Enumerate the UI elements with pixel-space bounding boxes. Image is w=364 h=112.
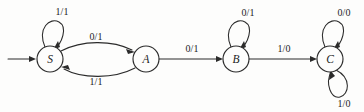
edge-b-to-c-arrowhead bbox=[310, 56, 317, 62]
start-arrowhead bbox=[29, 56, 36, 62]
state-node-a[interactable]: A bbox=[133, 46, 159, 72]
start-arrow bbox=[8, 56, 36, 62]
state-label-c: C bbox=[326, 53, 334, 65]
state-node-b[interactable]: B bbox=[223, 46, 249, 72]
transition-label-edge-s-to-a: 0/1 bbox=[90, 31, 103, 42]
state-label-b: B bbox=[232, 53, 239, 65]
self-loop-b bbox=[229, 21, 250, 50]
fsm-canvas: S A B C 1/1 0/1 1/1 0/1 0/1 1/0 0/0 1/0 bbox=[0, 0, 364, 112]
transition-label-self-loop-s: 1/1 bbox=[56, 6, 69, 17]
self-loop-c-bottom bbox=[329, 70, 348, 97]
state-node-s[interactable]: S bbox=[37, 46, 63, 72]
transition-label-self-loop-b: 0/1 bbox=[242, 7, 255, 18]
edge-a-to-b-arrowhead bbox=[216, 56, 223, 62]
transition-label-self-loop-c-bottom: 1/0 bbox=[338, 98, 351, 109]
transition-label-edge-b-to-c: 1/0 bbox=[278, 43, 291, 54]
edge-b-to-c bbox=[249, 56, 317, 62]
state-node-c[interactable]: C bbox=[317, 46, 343, 72]
transition-label-self-loop-c-top: 0/0 bbox=[338, 7, 351, 18]
transition-label-edge-a-to-s: 1/1 bbox=[90, 76, 103, 87]
state-label-a: A bbox=[141, 53, 150, 65]
edge-s-to-a bbox=[61, 43, 135, 54]
self-loop-c-top bbox=[323, 21, 344, 50]
transition-label-edge-a-to-b: 0/1 bbox=[186, 43, 199, 54]
fsm-diagram-figure: S A B C 1/1 0/1 1/1 0/1 0/1 1/0 0/0 1/0 bbox=[0, 0, 364, 112]
state-label-s: S bbox=[47, 53, 53, 65]
self-loop-s bbox=[43, 21, 64, 50]
edge-a-to-b bbox=[159, 56, 223, 62]
